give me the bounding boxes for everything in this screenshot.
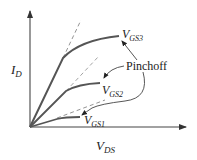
pinchoff-label: Pinchoff — [126, 59, 167, 73]
y-axis-label: ID — [10, 62, 22, 79]
dashed-line-vgs3 — [63, 20, 81, 58]
curve-label-vgs3: VGS3 — [122, 27, 143, 43]
fet-characteristics-diagram: ID VDS VGS3 VGS2 VGS1 Pinchoff — [0, 0, 197, 160]
pinchoff-arrow-vgs2 — [104, 66, 124, 78]
x-axis-label: VDS — [96, 138, 115, 155]
curve-label-vgs1: VGS1 — [84, 113, 105, 129]
pinchoff-arrow-vgs3 — [122, 41, 137, 60]
dashed-line-vgs1 — [57, 100, 105, 118]
curve-label-vgs2: VGS2 — [102, 83, 123, 99]
